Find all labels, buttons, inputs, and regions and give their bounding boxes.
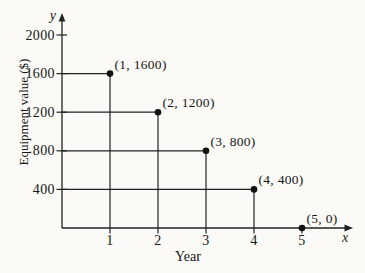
data-point-label: (5, 0) [307,211,338,226]
y-axis-letter: y [38,8,56,24]
data-point [203,148,210,155]
y-axis-title: Equipment value ($) [16,32,32,192]
y-axis-arrow-icon [59,13,66,22]
data-point [107,70,114,77]
x-axis-letter: x [342,230,348,246]
data-point-label: (2, 1200) [163,95,215,110]
data-point-label: (3, 800) [211,134,256,149]
x-tick-label: 3 [202,233,209,248]
data-point [155,109,162,116]
x-tick-label: 1 [106,233,113,248]
data-point [299,225,306,232]
chart-plot: 40080012001600200012345(1, 1600)(2, 1200… [0,0,365,273]
x-tick-label: 5 [298,233,305,248]
data-point-label: (4, 400) [259,172,304,187]
x-axis-title: Year [138,249,238,265]
equipment-depreciation-figure: 40080012001600200012345(1, 1600)(2, 1200… [0,0,365,273]
data-point [251,186,258,193]
x-tick-label: 4 [250,233,257,248]
y-tick-label: 400 [33,182,55,197]
data-point-label: (1, 1600) [115,57,167,72]
x-tick-label: 2 [154,233,161,248]
y-tick-label: 800 [33,143,55,158]
